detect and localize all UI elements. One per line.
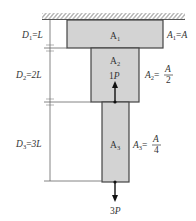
load-arrow-down: [112, 180, 118, 202]
svg-text:A3=: A3=: [132, 140, 147, 151]
load-label-3P: 3P: [110, 206, 121, 216]
stepped-bar-diagram: A1 A2 A3 D1=L D2=2L D3=3L A1=A A2= A 2 A…: [0, 0, 196, 221]
area-label-1: A1=A: [166, 30, 187, 41]
svg-text:4: 4: [154, 145, 159, 155]
length-label-2: D2=2L: [15, 70, 42, 81]
svg-text:2: 2: [166, 75, 171, 85]
svg-text:A2=: A2=: [144, 70, 159, 81]
svg-text:A: A: [152, 134, 159, 144]
length-label-3: D3=3L: [15, 139, 42, 150]
svg-text:A: A: [164, 64, 171, 74]
area-label-2: A2= A 2: [144, 64, 173, 85]
area-label-3: A3= A 4: [132, 134, 161, 155]
fixed-support: [42, 13, 185, 20]
load-label-1P: 1P: [109, 71, 120, 81]
length-label-1: D1=L: [21, 30, 43, 41]
